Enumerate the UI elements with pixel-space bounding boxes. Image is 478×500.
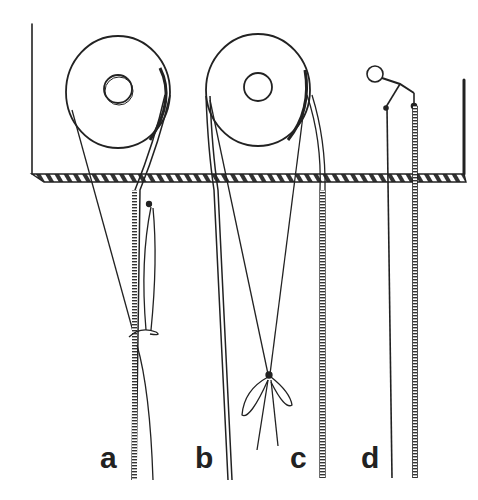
panel-b-tape — [206, 96, 232, 480]
diagram: a b c d — [0, 0, 478, 500]
panel-a-threads — [72, 95, 170, 480]
label-b: b — [195, 441, 213, 474]
reel-a — [66, 36, 170, 148]
label-d: d — [361, 441, 379, 474]
reel-bc — [206, 34, 310, 146]
panel-d-clip — [367, 66, 417, 478]
panel-c-threads — [210, 95, 325, 478]
label-c: c — [290, 441, 307, 474]
label-a: a — [100, 441, 117, 474]
shelf — [32, 174, 466, 182]
